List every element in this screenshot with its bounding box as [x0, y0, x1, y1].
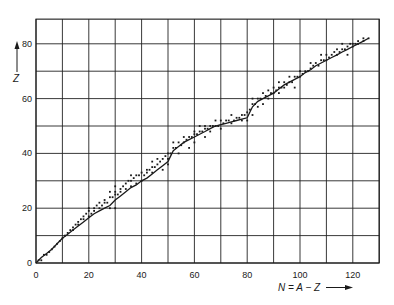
isotope-point	[114, 207, 116, 209]
isotope-point	[80, 218, 82, 220]
isotope-point	[331, 54, 333, 56]
isotope-point	[320, 54, 322, 56]
x-tick-label: 60	[189, 270, 199, 280]
x-tick-label: 100	[292, 270, 307, 280]
isotope-point	[88, 207, 90, 209]
isotope-point	[246, 111, 248, 113]
isotope-point	[341, 43, 343, 45]
isotope-point	[241, 114, 243, 116]
isotope-point	[135, 174, 137, 176]
isotope-point	[194, 142, 196, 144]
isotope-point	[93, 207, 95, 209]
x-tick-label: 20	[84, 270, 94, 280]
isotope-point	[278, 81, 280, 83]
isotope-point	[315, 62, 317, 64]
x-tick-label: 120	[345, 270, 360, 280]
isotope-point	[122, 185, 124, 187]
isotope-point	[106, 202, 108, 204]
isotope-point	[77, 221, 79, 223]
isotope-point	[278, 92, 280, 94]
isotope-point	[220, 120, 222, 122]
isotope-point	[236, 117, 238, 119]
isotope-point	[109, 207, 111, 209]
isotope-point	[133, 177, 135, 179]
isotope-point	[88, 210, 90, 212]
isotope-point	[151, 166, 153, 168]
isotope-point	[114, 191, 116, 193]
isotope-point	[294, 76, 296, 78]
isotope-point	[336, 48, 338, 50]
isotope-point	[130, 174, 132, 176]
isotope-point	[99, 202, 101, 204]
isotope-point	[146, 169, 148, 171]
isotope-point	[99, 207, 101, 209]
isotope-point	[215, 120, 217, 122]
isotope-point	[83, 216, 85, 218]
isotope-point	[83, 218, 85, 220]
isotope-point	[72, 227, 74, 229]
isotope-point	[188, 136, 190, 138]
isotope-point	[109, 196, 111, 198]
isotope-point	[357, 40, 359, 42]
y-axis-arrow-icon	[15, 41, 20, 49]
isotope-point	[157, 158, 159, 160]
isotope-point	[267, 98, 269, 100]
grid-lines	[36, 19, 379, 263]
isotope-point	[151, 161, 153, 163]
isotope-point	[262, 103, 264, 105]
x-axis-arrow-icon	[345, 285, 353, 290]
isotope-point	[114, 194, 116, 196]
isotope-point	[352, 43, 354, 45]
isotope-point	[320, 59, 322, 61]
x-tick-label: 40	[137, 270, 147, 280]
isotope-point	[120, 191, 122, 193]
isotope-point	[183, 136, 185, 138]
isotope-point	[162, 169, 164, 171]
isotope-point	[75, 224, 77, 226]
isotope-point	[294, 87, 296, 89]
isotope-point	[341, 48, 343, 50]
y-axis-label-group: Z	[12, 41, 20, 84]
isotope-point	[96, 205, 98, 207]
isotope-point	[104, 199, 106, 201]
isotope-point	[167, 153, 169, 155]
isotope-point	[283, 81, 285, 83]
isotope-point	[104, 202, 106, 204]
y-tick-label: 0	[27, 258, 32, 268]
isotope-point	[310, 62, 312, 64]
isotope-point	[128, 180, 130, 182]
isotope-point	[199, 131, 201, 133]
isotope-point	[228, 120, 230, 122]
isotope-point	[146, 172, 148, 174]
isotope-point	[273, 87, 275, 89]
isotope-point	[157, 164, 159, 166]
isotope-point	[283, 87, 285, 89]
isotope-point	[194, 131, 196, 133]
isotope-point	[246, 120, 248, 122]
isotope-point	[114, 185, 116, 187]
isotope-point	[69, 229, 71, 231]
isotope-point	[149, 169, 151, 171]
isotope-point	[125, 188, 127, 190]
isotope-point	[40, 259, 42, 261]
isotope-point	[204, 125, 206, 127]
isotope-point	[252, 98, 254, 100]
isotope-point	[225, 120, 227, 122]
y-tick-label: 60	[22, 94, 32, 104]
x-axis-tick-labels: 020406080100120	[33, 270, 360, 280]
isotope-point	[109, 191, 111, 193]
isotope-point	[204, 136, 206, 138]
x-axis-label-group: N = A − Z	[278, 282, 353, 293]
isotope-point	[112, 196, 114, 198]
isotope-point	[333, 51, 335, 53]
y-axis-tick-labels: 020406080	[22, 39, 32, 268]
isotope-point	[85, 213, 87, 215]
y-axis-label: Z	[12, 73, 20, 84]
isotope-point	[231, 114, 233, 116]
isotope-point	[143, 174, 145, 176]
isotope-point	[257, 106, 259, 108]
isotope-point	[130, 180, 132, 182]
isotope-point	[125, 183, 127, 185]
x-tick-label: 80	[242, 270, 252, 280]
isotope-point	[120, 188, 122, 190]
